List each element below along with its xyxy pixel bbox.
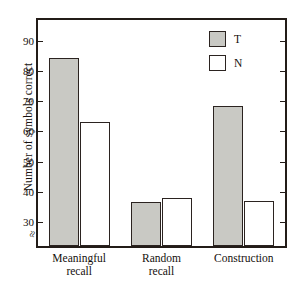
bar-t <box>213 106 243 246</box>
legend-label-n: N <box>234 57 242 69</box>
bar-t <box>49 58 79 246</box>
legend-swatch-t-icon <box>209 31 226 47</box>
y-axis-tick-label: 70 <box>4 95 34 107</box>
x-axis-category-label: Meaningfulrecall <box>52 252 106 278</box>
bar-n <box>80 122 110 246</box>
bar-n <box>162 198 192 246</box>
bar-n <box>244 201 274 246</box>
y-axis-tick-label: 50 <box>4 156 34 168</box>
bar-t <box>131 202 161 246</box>
y-axis-tick-label: 40 <box>4 186 34 198</box>
legend-label-t: T <box>234 33 241 45</box>
y-axis-tick-label: 30 <box>4 216 34 228</box>
axis-break-icon: ≈ <box>26 230 39 239</box>
bars-container <box>38 20 285 246</box>
y-axis-tick-label: 90 <box>4 35 34 47</box>
x-axis-category-label: Construction <box>214 252 273 265</box>
bar-chart-figure: Number of symbols correct 30405060708090… <box>0 0 294 284</box>
legend-item-t: T <box>209 31 242 47</box>
legend-swatch-n-icon <box>209 55 226 71</box>
y-axis-tick-label: 80 <box>4 65 34 77</box>
y-axis-tick-label: 60 <box>4 125 34 137</box>
legend: T N <box>209 31 242 79</box>
x-axis-category-label: Randomrecall <box>142 252 181 278</box>
legend-item-n: N <box>209 55 242 71</box>
